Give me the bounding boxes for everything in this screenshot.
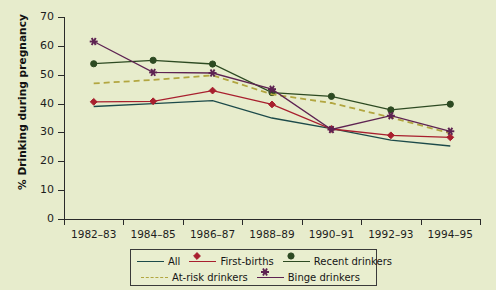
legend-swatch-at-risk-drinkers — [141, 273, 168, 282]
data-point — [328, 93, 334, 99]
data-point — [149, 69, 157, 76]
legend-swatch-recent-drinkers — [283, 257, 310, 266]
data-point — [209, 87, 216, 94]
legend-row-2: At-risk drinkersBinge drinkers — [137, 269, 370, 285]
data-point — [387, 132, 394, 139]
chart-root: % Drinking during pregnancy 010203040506… — [0, 0, 496, 290]
legend-swatch-all — [137, 257, 164, 266]
legend-label: Recent drinkers — [314, 256, 392, 267]
legend-item-binge-drinkers[interactable]: Binge drinkers — [257, 272, 369, 283]
data-point — [91, 61, 97, 67]
legend-item-first-births[interactable]: First-births — [189, 256, 282, 267]
data-point — [447, 101, 453, 107]
legend-label: At-risk drinkers — [172, 272, 248, 283]
legend-swatch-first-births — [189, 257, 216, 266]
legend-label: All — [168, 256, 180, 267]
legend-swatch-binge-drinkers — [257, 273, 284, 282]
data-point — [90, 38, 98, 45]
legend-label: First-births — [220, 256, 273, 267]
data-point — [447, 134, 454, 141]
data-point — [269, 101, 276, 108]
data-point — [388, 107, 394, 113]
legend-row-1: AllFirst-birthsRecent drinkers — [137, 253, 370, 269]
legend-item-recent-drinkers[interactable]: Recent drinkers — [283, 256, 401, 267]
data-point — [209, 61, 215, 67]
plot-lines — [0, 0, 496, 290]
data-point — [90, 98, 97, 105]
data-point — [150, 57, 156, 63]
legend-label: Binge drinkers — [288, 272, 360, 283]
chart-legend: AllFirst-birthsRecent drinkers At-risk d… — [130, 249, 377, 286]
legend-item-at-risk-drinkers[interactable]: At-risk drinkers — [141, 272, 257, 283]
legend-item-all[interactable]: All — [137, 256, 189, 267]
